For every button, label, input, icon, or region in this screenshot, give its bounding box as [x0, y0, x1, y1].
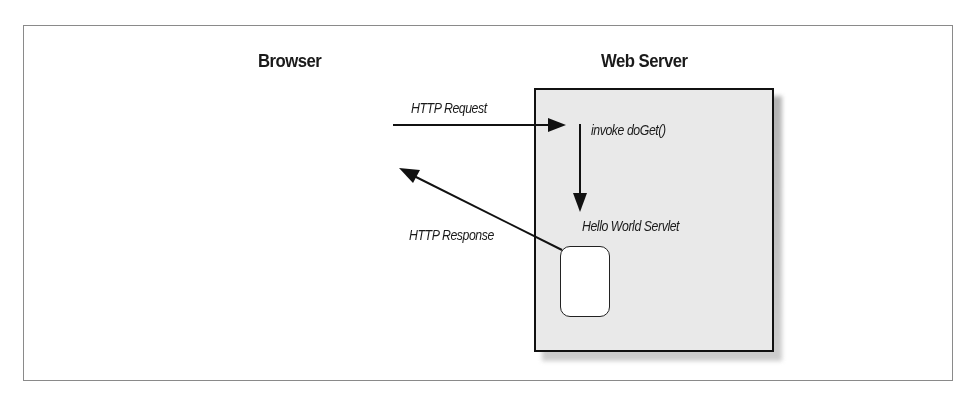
- servlet-box: [560, 246, 610, 317]
- http-request-label: HTTP Request: [411, 100, 487, 116]
- diagram-frame: [23, 25, 953, 381]
- browser-heading: Browser: [258, 50, 321, 72]
- http-response-label: HTTP Response: [409, 227, 494, 243]
- web-server-heading: Web Server: [601, 50, 687, 72]
- invoke-doget-label: invoke doGet(): [591, 122, 666, 138]
- servlet-label: Hello World Servlet: [582, 218, 679, 234]
